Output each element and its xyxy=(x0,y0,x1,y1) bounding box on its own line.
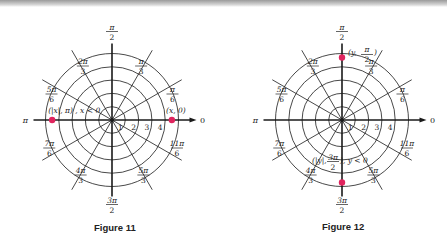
polar-axis-arrow-icon xyxy=(420,118,427,123)
fraction-numerator: 5π xyxy=(369,166,380,175)
fraction-numerator: 7π xyxy=(44,139,55,148)
point-label-absx-pi: (|x|, π) , x < 0 xyxy=(48,106,100,115)
fraction-denominator: 3 xyxy=(80,67,85,76)
ring-label-2: 2 xyxy=(361,123,366,132)
pole-point xyxy=(340,118,344,122)
fraction-denominator: 2 xyxy=(340,206,345,215)
ring-label-4: 4 xyxy=(158,123,163,132)
fraction-numerator: π xyxy=(169,85,176,94)
fraction-numerator: 4π xyxy=(305,166,317,175)
pole-point xyxy=(110,118,114,122)
fraction-numerator: 3π xyxy=(328,153,339,162)
fraction-numerator: π xyxy=(339,23,346,32)
point-label-fraction-1: 3π2 xyxy=(327,153,339,172)
ring-label-1: 1 xyxy=(348,123,353,132)
figure-12-polar-grid: 12340ππ6π3π22π35π67π64π33π25π311π6(y, π2… xyxy=(252,23,435,215)
plotted-point-1 xyxy=(49,117,55,123)
fraction-denominator: 3 xyxy=(139,67,144,76)
fraction-numerator: 11π xyxy=(170,139,186,148)
fraction-denominator: 2 xyxy=(110,206,115,215)
angle-label-210: 7π6 xyxy=(273,139,285,158)
fraction-denominator: 6 xyxy=(175,149,180,158)
fraction-denominator: 3 xyxy=(141,176,146,185)
polar-axis-arrow-icon xyxy=(190,118,197,123)
fraction-denominator: 6 xyxy=(170,95,175,104)
fraction-denominator: 3 xyxy=(308,176,313,185)
fraction-denominator: 3 xyxy=(78,176,83,185)
angle-label-270: 3π2 xyxy=(106,196,118,215)
angle-label-150: 5π6 xyxy=(46,85,58,104)
fraction-denominator: 3 xyxy=(369,67,374,76)
fraction-numerator: 2π xyxy=(77,57,89,66)
figure-12-caption: Figure 12 xyxy=(322,221,364,232)
ring-label-4: 4 xyxy=(388,123,393,132)
angle-label-150: 5π6 xyxy=(276,85,288,104)
fraction-numerator: 7π xyxy=(274,139,285,148)
fraction-numerator: π xyxy=(364,45,371,54)
point-label-tail-0: ) xyxy=(373,48,377,57)
fraction-numerator: 5π xyxy=(139,166,150,175)
angle-label-pi: π xyxy=(22,116,29,125)
angle-label-90: π2 xyxy=(336,23,348,42)
radial-line-60 xyxy=(112,50,152,120)
fraction-denominator: 6 xyxy=(405,149,410,158)
fraction-numerator: 11π xyxy=(400,139,416,148)
fraction-denominator: 3 xyxy=(310,67,315,76)
point-label-x0: (x, 0) xyxy=(166,106,186,115)
fraction-denominator: 6 xyxy=(279,95,284,104)
plotted-point-0 xyxy=(339,54,345,60)
fraction-numerator: 5π xyxy=(277,85,288,94)
fraction-numerator: π xyxy=(399,85,406,94)
fraction-numerator: 5π xyxy=(47,85,58,94)
fraction-denominator: 3 xyxy=(371,176,376,185)
ring-label-2: 2 xyxy=(131,123,136,132)
fraction-numerator: 3π xyxy=(107,196,118,205)
fraction-denominator: 6 xyxy=(277,149,282,158)
fraction-denominator: 6 xyxy=(47,149,52,158)
angle-label-pi: π xyxy=(252,116,259,125)
radial-line-60 xyxy=(342,50,382,120)
fraction-numerator: 3π xyxy=(337,196,348,205)
fraction-denominator: 2 xyxy=(331,163,336,172)
angle-label-0: 0 xyxy=(430,116,435,125)
fraction-numerator: 2π xyxy=(307,57,319,66)
figure-11-polar-grid: 12340ππ6π3π22π35π67π64π33π25π311π6(x, 0)… xyxy=(22,23,205,215)
polar-grids-canvas: 12340ππ6π3π22π35π67π64π33π25π311π6(x, 0)… xyxy=(0,0,447,244)
ring-label-3: 3 xyxy=(375,123,380,132)
point-label-tail-1: ), y < 0 xyxy=(339,156,368,165)
ring-label-3: 3 xyxy=(145,123,150,132)
fraction-numerator: π xyxy=(109,23,116,32)
fraction-denominator: 2 xyxy=(340,33,345,42)
fraction-denominator: 2 xyxy=(365,55,370,64)
fraction-denominator: 6 xyxy=(49,95,54,104)
fraction-denominator: 6 xyxy=(400,95,405,104)
point-label-1: (|y|, xyxy=(312,156,327,165)
ring-label-1: 1 xyxy=(118,123,123,132)
angle-label-210: 7π6 xyxy=(43,139,55,158)
point-label-0: (y, xyxy=(348,48,357,57)
angle-label-90: π2 xyxy=(106,23,118,42)
plotted-point-1 xyxy=(339,179,345,185)
angle-label-270: 3π2 xyxy=(336,196,348,215)
figure-11-caption: Figure 11 xyxy=(94,222,136,233)
angle-label-0: 0 xyxy=(200,116,205,125)
fraction-numerator: 4π xyxy=(75,166,87,175)
plotted-point-0 xyxy=(169,117,175,123)
fraction-denominator: 2 xyxy=(110,33,115,42)
